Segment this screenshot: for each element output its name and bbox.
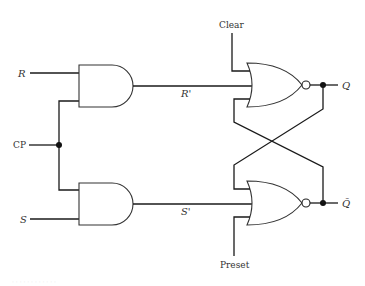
- nor-2-inversion-bubble: [302, 199, 310, 207]
- label-r-prime: R': [180, 88, 191, 99]
- wire-cp-to-and1: [59, 101, 79, 145]
- and-gate-1: [79, 65, 133, 107]
- label-r: R: [17, 68, 26, 79]
- label-s: S: [20, 214, 27, 225]
- wire-cp-to-and2: [59, 145, 79, 190]
- figure-caption: · · · · · · · · · · · ·: [12, 278, 56, 285]
- label-s-prime: S': [181, 206, 191, 217]
- label-preset: Preset: [220, 260, 250, 270]
- label-clear: Clear: [219, 20, 244, 30]
- nor-gate-2: [247, 181, 302, 225]
- label-q-bar: Q̄: [342, 198, 350, 209]
- and-gate-2: [79, 183, 133, 225]
- label-q: Q: [342, 80, 350, 91]
- nor-gate-1: [247, 63, 302, 107]
- wire-clear: [232, 33, 250, 71]
- cp-junction-node: [56, 142, 62, 148]
- flip-flop-diagram: R CP S R' S' Clear Preset Q Q̄ · · · · ·…: [0, 0, 365, 286]
- nor-1-inversion-bubble: [302, 81, 310, 89]
- label-cp: CP: [13, 140, 26, 150]
